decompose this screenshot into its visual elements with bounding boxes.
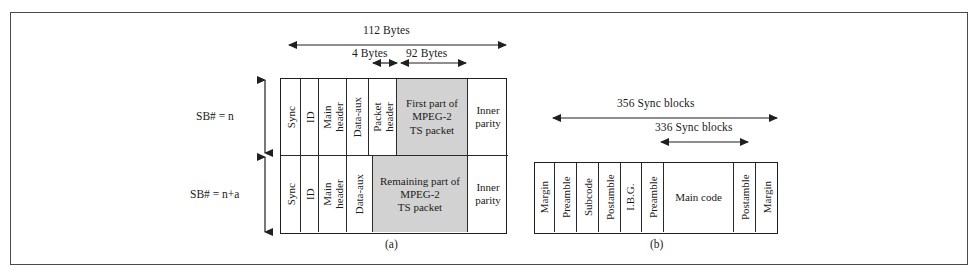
cell-first-part-mpeg2-ts-packet: First part ofMPEG-2TS packet [397,79,468,155]
cell-postamble-1: Postamble [599,163,621,232]
cell-label: Packetheader [370,102,394,131]
cell-label: I.B.G. [625,184,637,211]
cell-label: ID [303,111,315,123]
cell-label: First part ofMPEG-2TS packet [406,97,458,137]
cell-label: Subcode [581,178,593,216]
cell-inner-parity-top: Innerparity [468,79,508,155]
cell-inner-parity-bottom: Innerparity [468,156,508,232]
cell-preamble-2: Preamble [642,163,664,232]
cell-label: Data-aux [353,174,365,214]
row-label-sb-n: SB# = n [196,110,234,122]
cell-data-aux-bottom: Data-aux [347,156,373,232]
cell-margin-left: Margin [535,163,555,232]
cell-label: Sync [284,183,296,205]
cell-label: Main code [675,191,722,204]
cell-remaining-part-mpeg2-ts-packet: Remaining part ofMPEG-2TS packet [373,156,468,232]
cell-main-code: Main code [664,163,734,232]
cell-label: Innerparity [475,104,501,130]
cell-label: Innerparity [475,181,501,207]
cell-subcode: Subcode [577,163,599,232]
row-label-sb-n-plus-a: SB# = n+a [190,188,239,200]
track-format-table-b: Margin Preamble Subcode Postamble I.B.G.… [534,162,778,234]
dimension-label-356-sync-blocks: 356 Sync blocks [617,97,695,109]
cell-label: Remaining part ofMPEG-2TS packet [380,175,460,215]
caption-a: (a) [385,238,398,250]
cell-label: ID [303,189,315,201]
cell-margin-right: Margin [756,163,779,232]
cell-label: Preamble [646,177,658,219]
sync-block-table-a: Sync ID Mainheader Data-aux Packetheader… [280,78,507,234]
cell-packet-header-top: Packetheader [369,79,397,155]
cell-id-top: ID [301,79,319,155]
cell-data-aux-top: Data-aux [347,79,369,155]
cell-label: Mainheader [320,180,344,209]
cell-id-bottom: ID [301,156,319,232]
cell-label: Postamble [603,174,615,220]
cell-postamble-2: Postamble [734,163,756,232]
cell-sync-top: Sync [281,79,301,155]
cell-label: Postamble [738,174,750,220]
cell-main-header-bottom: Mainheader [319,156,347,232]
cell-label: Sync [284,106,296,128]
cell-label: Preamble [559,177,571,219]
caption-b: (b) [650,238,663,250]
dimension-label-92-bytes: 92 Bytes [406,47,447,59]
cell-sync-bottom: Sync [281,156,301,232]
dimension-label-336-sync-blocks: 336 Sync blocks [655,121,733,133]
dimension-label-4-bytes: 4 Bytes [352,47,388,59]
cell-preamble-1: Preamble [555,163,577,232]
cell-label: Data-aux [351,97,363,137]
cell-main-header-top: Mainheader [319,79,347,155]
dimension-label-112-bytes: 112 Bytes [363,24,410,36]
cell-label: Margin [538,181,550,213]
cell-ibg: I.B.G. [621,163,642,232]
cell-label: Margin [761,181,773,213]
cell-label: Mainheader [320,102,344,131]
